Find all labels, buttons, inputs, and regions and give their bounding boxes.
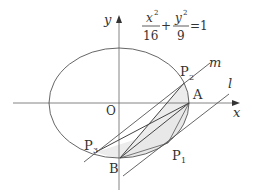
eq-plus: + (161, 19, 171, 33)
y-axis-label: y (103, 12, 112, 27)
x-axis-label: x (233, 105, 241, 120)
point-P2-label: P (180, 64, 189, 79)
ellipse-diagram: x 2 16 + y 2 9 =1 y x O A B P 1 P 2 P 3 … (0, 0, 253, 194)
point-P2-subscript: 2 (189, 73, 194, 82)
point-A-label: A (192, 87, 203, 102)
point-B-label: B (109, 161, 119, 176)
point-P1-label: P (172, 148, 181, 163)
diagram-svg: x 2 16 + y 2 9 =1 y x O A B P 1 P 2 P 3 … (0, 0, 253, 194)
line-l-label: l (228, 76, 232, 91)
y-axis-arrow-icon (116, 15, 122, 23)
axes (13, 15, 240, 190)
line-m-label: m (209, 55, 221, 70)
point-P1-subscript: 1 (181, 156, 186, 165)
eq-x-exp: 2 (154, 9, 158, 17)
eq-x-den: 16 (143, 29, 158, 43)
point-P3-label: P (84, 138, 93, 153)
eq-x-num: x (146, 11, 153, 25)
point-P3-subscript: 3 (93, 146, 98, 155)
eq-y-exp: 2 (183, 9, 187, 17)
origin-label: O (106, 104, 116, 118)
eq-y-den: 9 (177, 29, 185, 43)
eq-y-num: y (174, 11, 182, 25)
ellipse-equation: x 2 16 + y 2 9 =1 (142, 9, 208, 43)
eq-equals-one: =1 (190, 19, 208, 33)
